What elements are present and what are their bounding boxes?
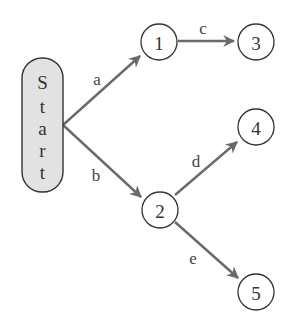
node-label: 4 [251,118,261,139]
node-3: 3 [238,24,274,60]
start-node: S t a r t [22,58,63,192]
node-label: 1 [154,33,164,54]
edge-e: e [175,222,238,278]
edge-c: c [178,19,234,42]
edge-label-b: b [92,166,101,185]
node-label: 5 [251,283,261,304]
edge-b: b [63,125,141,197]
edge-a: a [63,56,140,125]
edge-label-a: a [93,70,101,89]
node-4: 4 [238,109,274,145]
edge-label-e: e [189,249,197,268]
start-char: S [37,72,48,93]
node-5: 5 [238,274,274,310]
node-label: 2 [155,201,165,222]
start-char: t [40,96,46,117]
node-label: 3 [251,33,261,54]
node-2: 2 [142,192,178,228]
node-1: 1 [141,24,177,60]
start-char: t [40,162,46,183]
edge-label-c: c [199,19,207,38]
start-char: r [39,140,46,161]
start-char: a [38,118,47,139]
edge-label-d: d [192,152,201,171]
tree-diagram: a b c d e S t a r t 1 3 4 2 [0,0,292,326]
edge-d: d [175,142,237,195]
